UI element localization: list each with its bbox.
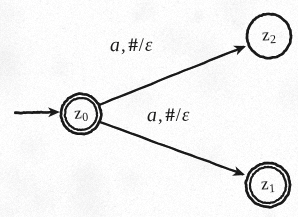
automaton-diagram: z0 z2 z1 a, #/ε a, #/ε bbox=[0, 0, 298, 217]
diagram-canvas bbox=[0, 0, 298, 217]
